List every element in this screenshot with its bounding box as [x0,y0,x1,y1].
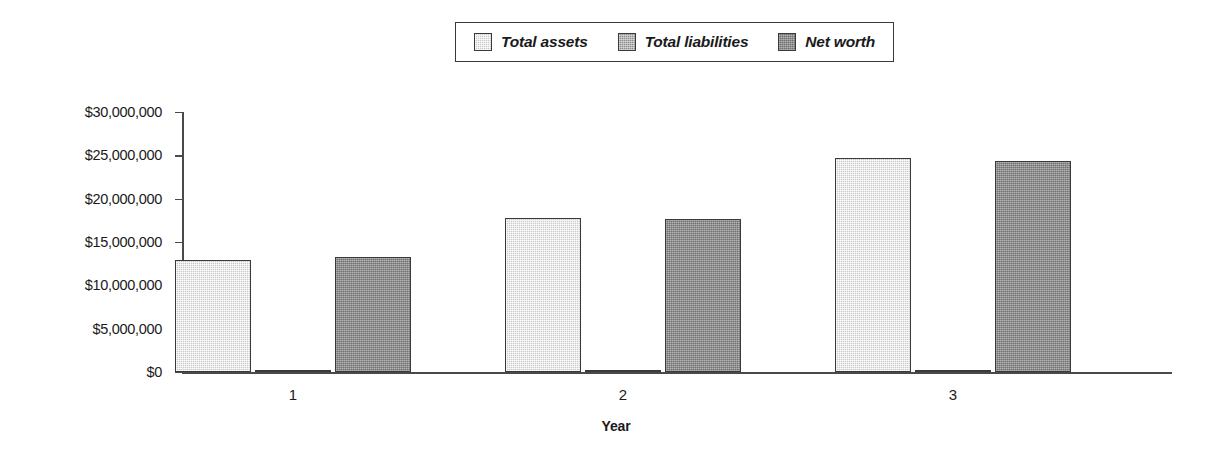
x-axis-tick-label: 1 [289,386,297,403]
legend-swatch-net-worth [778,33,796,51]
y-axis-tick-label: $30,000,000 [85,104,162,120]
y-axis-tick-label: $20,000,000 [85,191,162,207]
bar-total-assets-year-3 [835,158,911,372]
y-axis-tick [175,155,182,156]
y-axis-tick-label: $10,000,000 [85,277,162,293]
y-axis-tick [175,242,182,243]
bar-total-assets-year-2 [505,218,581,372]
y-axis-tick-label: $25,000,000 [85,147,162,163]
y-axis-tick-labels: $30,000,000$25,000,000$20,000,000$15,000… [40,112,172,372]
bar-chart: Total assets Total liabilities Net worth… [0,0,1232,467]
y-axis-tick [175,372,182,373]
legend-item-total-assets: Total assets [474,33,588,51]
bar-total-liabilities-year-2 [585,370,661,372]
legend-swatch-total-assets [474,33,492,51]
y-axis-tick-label: $15,000,000 [85,234,162,250]
chart-legend: Total assets Total liabilities Net worth [455,22,894,62]
bar-total-liabilities-year-3 [915,370,991,372]
legend-label-total-liabilities: Total liabilities [645,33,749,51]
bar-net-worth-year-3 [995,161,1071,372]
legend-label-net-worth: Net worth [805,33,875,51]
y-axis-tick-label: $0 [146,364,162,380]
x-axis-tick-label: 3 [949,386,957,403]
bar-total-liabilities-year-1 [255,370,331,372]
bar-total-assets-year-1 [175,260,251,372]
x-axis-line [182,372,1172,374]
y-axis-tick-label: $5,000,000 [92,321,162,337]
y-axis-tick [175,112,182,113]
legend-label-total-assets: Total assets [501,33,588,51]
bar-net-worth-year-2 [665,219,741,372]
x-axis-title: Year [0,418,1232,434]
plot-area [182,112,1172,372]
legend-item-net-worth: Net worth [778,33,875,51]
legend-swatch-total-liabilities [618,33,636,51]
legend-item-total-liabilities: Total liabilities [618,33,749,51]
x-axis-tick-label: 2 [619,386,627,403]
y-axis-tick [175,199,182,200]
bar-net-worth-year-1 [335,257,411,372]
